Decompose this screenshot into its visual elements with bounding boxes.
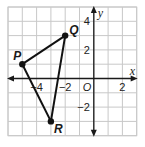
x-axis-label: x	[129, 64, 136, 78]
point-r-label: R	[54, 122, 63, 136]
point-p-label: P	[13, 49, 22, 63]
coordinate-plane: −4−2242−2 x y O PQR	[0, 0, 145, 147]
points: PQR	[13, 23, 79, 137]
origin-label: O	[83, 81, 92, 93]
x-tick-label: 2	[119, 81, 125, 93]
y-tick-label: −2	[77, 101, 90, 113]
x-tick-label: −2	[59, 81, 72, 93]
point-q-label: Q	[69, 23, 79, 37]
y-axis-label: y	[97, 6, 104, 20]
point-q	[62, 32, 68, 38]
y-tick-label: 2	[84, 44, 90, 56]
y-tick-label: 4	[84, 15, 90, 27]
